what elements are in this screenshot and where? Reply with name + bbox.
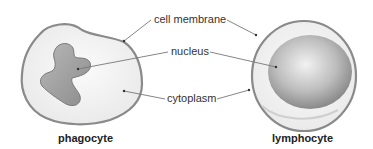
lymphocyte-nucleus (268, 35, 352, 109)
white-blood-cells-diagram: cell membrane nucleus cytoplasm phagocyt… (0, 0, 373, 149)
label-nucleus: nucleus (171, 45, 209, 57)
caption-lymphocyte: lymphocyte (272, 132, 333, 144)
phagocyte-cell (22, 24, 142, 124)
caption-phagocyte: phagocyte (58, 132, 113, 144)
label-cytoplasm: cytoplasm (167, 92, 217, 104)
lymphocyte-cell (252, 21, 356, 131)
label-cell-membrane: cell membrane (154, 13, 226, 25)
